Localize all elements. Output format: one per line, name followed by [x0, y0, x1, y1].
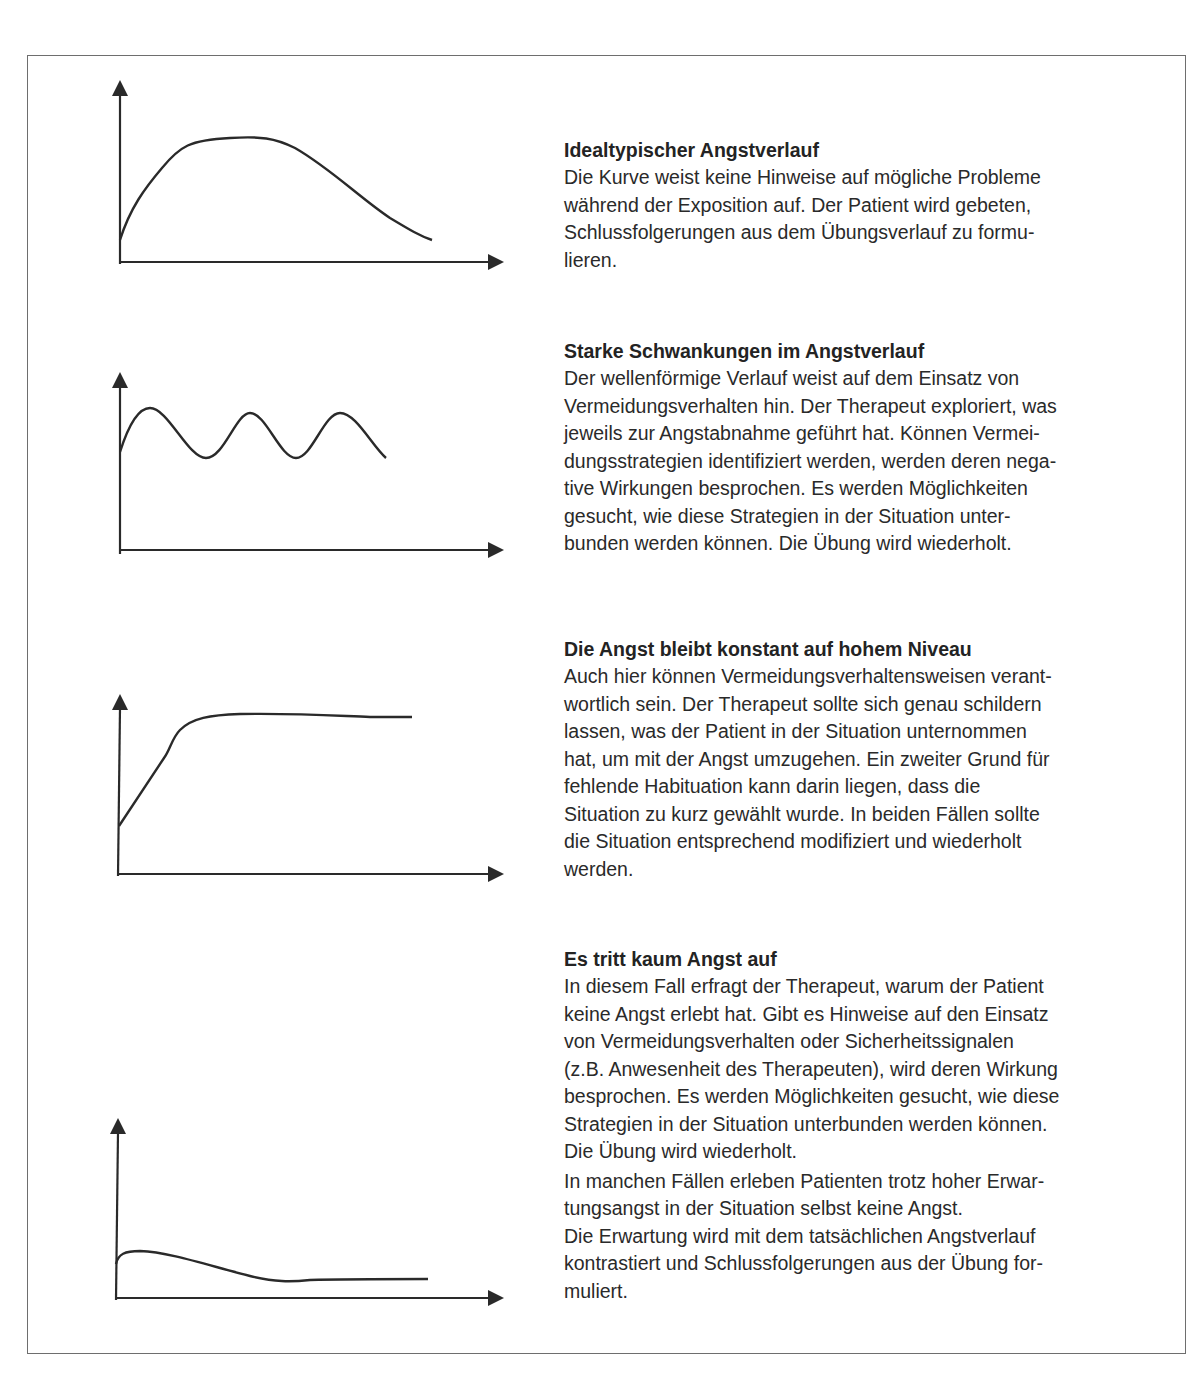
text-line: In manchen Fällen erleben Patienten trot… [564, 1168, 1124, 1196]
x-axis-arrow-icon [488, 254, 504, 270]
section-body: Die Kurve weist keine Hinweise auf mögli… [564, 164, 1124, 274]
section-title: Die Angst bleibt konstant auf hohem Nive… [564, 636, 1124, 663]
text-line: Auch hier können Vermeidungsverhaltenswe… [564, 663, 1124, 691]
graph-kaum-angst [100, 1114, 510, 1314]
text-line: jeweils zur Angstabnahme geführt hat. Kö… [564, 420, 1124, 448]
text-line: lieren. [564, 247, 1124, 275]
text-line: hat, um mit der Angst umzugehen. Ein zwe… [564, 746, 1124, 774]
y-axis-arrow-icon [110, 1118, 126, 1134]
x-axis-arrow-icon [488, 1290, 504, 1306]
section-body: Der wellenförmige Verlauf weist auf dem … [564, 365, 1124, 558]
graph-konstant-hoch [100, 688, 510, 888]
section-kaum-angst: Es tritt kaum Angst auf In diesem Fall e… [564, 946, 1124, 1305]
text-line: dungsstrategien identifiziert werden, we… [564, 448, 1124, 476]
section-idealtypisch: Idealtypischer Angstverlauf Die Kurve we… [564, 137, 1124, 274]
x-axis-arrow-icon [488, 866, 504, 882]
section-konstant-hoch: Die Angst bleibt konstant auf hohem Nive… [564, 636, 1124, 883]
text-line: kontrastiert und Schlussfolgerungen aus … [564, 1250, 1124, 1278]
text-line: keine Angst erlebt hat. Gibt es Hinweise… [564, 1001, 1124, 1029]
anxiety-curve-ideal [100, 78, 510, 278]
y-axis-arrow-icon [112, 694, 128, 710]
text-line: (z.B. Anwesenheit des Therapeuten), wird… [564, 1056, 1124, 1084]
text-line: von Vermeidungsverhalten oder Sicherheit… [564, 1028, 1124, 1056]
text-line: Schlussfolgerungen aus dem Übungsverlauf… [564, 219, 1124, 247]
anxiety-curve-low [100, 1114, 510, 1314]
text-line: Vermeidungsverhalten hin. Der Therapeut … [564, 393, 1124, 421]
text-line: bunden werden können. Die Übung wird wie… [564, 530, 1124, 558]
text-line: während der Exposition auf. Der Patient … [564, 192, 1124, 220]
x-axis-arrow-icon [488, 542, 504, 558]
text-line: lassen, was der Patient in der Situation… [564, 718, 1124, 746]
text-line: fehlende Habituation kann darin liegen, … [564, 773, 1124, 801]
text-line: Strategien in der Situation unterbunden … [564, 1111, 1124, 1139]
anxiety-curve-plateau [100, 688, 510, 888]
graph-idealtypisch [100, 78, 510, 278]
section-title: Es tritt kaum Angst auf [564, 946, 1124, 973]
y-axis-arrow-icon [112, 80, 128, 96]
text-line: werden. [564, 856, 1124, 884]
y-axis-arrow-icon [112, 372, 128, 388]
section-body: Auch hier können Vermeidungsverhaltenswe… [564, 663, 1124, 883]
text-line: Situation zu kurz gewählt wurde. In beid… [564, 801, 1124, 829]
text-line: Die Übung wird wiederholt. [564, 1138, 1124, 1166]
text-line: die Situation entsprechend modifiziert u… [564, 828, 1124, 856]
text-line: Der wellenförmige Verlauf weist auf dem … [564, 365, 1124, 393]
anxiety-curve-wave [100, 368, 510, 568]
section-schwankungen: Starke Schwankungen im Angstverlauf Der … [564, 338, 1124, 558]
text-line: Die Erwartung wird mit dem tatsächlichen… [564, 1223, 1124, 1251]
graph-schwankungen [100, 368, 510, 568]
section-body: In diesem Fall erfragt der Therapeut, wa… [564, 973, 1124, 1166]
text-line: In diesem Fall erfragt der Therapeut, wa… [564, 973, 1124, 1001]
text-line: Die Kurve weist keine Hinweise auf mögli… [564, 164, 1124, 192]
text-line: tive Wirkungen besprochen. Es werden Mög… [564, 475, 1124, 503]
section-title: Idealtypischer Angstverlauf [564, 137, 1124, 164]
text-line: besprochen. Es werden Möglichkeiten gesu… [564, 1083, 1124, 1111]
section-body-2: In manchen Fällen erleben Patienten trot… [564, 1168, 1124, 1306]
text-line: gesucht, wie diese Strategien in der Sit… [564, 503, 1124, 531]
text-line: wortlich sein. Der Therapeut sollte sich… [564, 691, 1124, 719]
section-title: Starke Schwankungen im Angstverlauf [564, 338, 1124, 365]
text-line: tungsangst in der Situation selbst keine… [564, 1195, 1124, 1223]
text-line: muliert. [564, 1278, 1124, 1306]
